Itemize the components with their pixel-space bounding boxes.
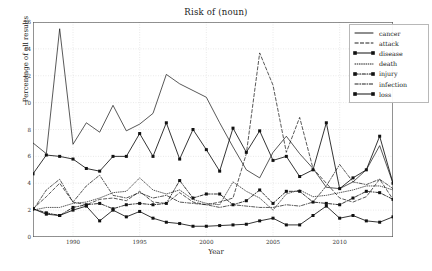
series-marker-disease [312,168,315,171]
series-marker-disease [85,167,88,170]
series-marker-injury [152,203,155,206]
legend-swatch-infection [352,79,376,89]
series-marker-injury [165,202,168,205]
series-line-disease [33,123,393,189]
series-marker-injury [272,202,275,205]
legend-item-infection[interactable]: infection [352,79,425,89]
legend-item-injury[interactable]: injury [352,69,425,79]
series-marker-injury [98,202,101,205]
series-marker-disease [192,128,195,131]
series-marker-disease [325,121,328,124]
y-tick-label: 8 [27,127,31,133]
series-marker-loss [33,207,35,210]
series-marker-disease [125,155,128,158]
x-tick-label: 1990 [66,239,80,245]
series-marker-loss [205,225,208,228]
x-tick-label: 1995 [133,239,147,245]
y-tick-label: 14 [24,46,31,52]
legend-swatch-loss [352,89,376,99]
series-marker-disease [352,176,355,179]
series-marker-loss [45,213,48,216]
series-marker-disease [165,121,168,124]
series-marker-injury [125,203,128,206]
series-marker-loss [232,223,235,226]
series-marker-disease [45,154,48,157]
series-marker-disease [58,155,61,158]
series-marker-loss [112,209,115,212]
series-marker-loss [312,214,315,217]
series-marker-loss [72,209,75,212]
y-tick-label: 10 [24,100,31,106]
series-marker-injury [178,179,181,182]
series-marker-disease [272,159,275,162]
legend-item-attack[interactable]: attack [352,38,425,48]
series-marker-injury [352,197,355,200]
y-tick-label: 6 [27,153,31,159]
y-tick-label: 0 [27,234,31,240]
legend-swatch-disease [352,48,376,58]
legend-item-cancer[interactable]: cancer [352,28,425,38]
legend-label-cancer: cancer [376,30,401,37]
series-marker-loss [85,205,88,208]
series-marker-injury [378,191,381,194]
series-marker-disease [178,158,181,161]
series-marker-loss [365,219,368,222]
series-marker-disease [378,135,381,138]
legend-item-disease[interactable]: disease [352,48,425,58]
series-marker-loss [218,224,221,227]
legend-label-attack: attack [376,40,399,47]
series-marker-injury [205,193,208,196]
series-marker-disease [392,182,394,185]
series-marker-injury [218,193,221,196]
series-marker-injury [72,206,75,209]
series-marker-disease [72,158,75,161]
series-marker-loss [138,210,141,213]
series-marker-injury [285,190,288,193]
series-marker-disease [338,187,341,190]
series-line-loss [33,206,393,226]
series-marker-injury [138,202,141,205]
series-marker-loss [378,221,381,224]
x-tick-label: 2000 [199,239,213,245]
legend-label-loss: loss [376,91,391,98]
legend-label-infection: infection [376,81,407,88]
series-marker-disease [285,155,288,158]
series-marker-loss [392,215,394,218]
series-marker-disease [33,172,35,175]
legend-label-disease: disease [376,50,403,57]
series-marker-injury [392,198,394,201]
series-marker-disease [245,151,248,154]
series-marker-loss [58,214,61,217]
series-marker-loss [338,217,341,220]
legend-swatch-attack [352,38,376,48]
legend-label-injury: injury [376,70,398,77]
series-marker-loss [298,223,301,226]
series-line-cancer [33,29,393,189]
series-marker-injury [298,190,301,193]
plot-area: 024681012141619901995200020052010 [33,22,393,237]
series-marker-disease [218,170,221,173]
series-marker-disease [138,132,141,135]
series-marker-disease [365,168,368,171]
series-marker-loss [98,219,101,222]
chart-title: Risk of (noun) [0,7,432,17]
y-tick-label: 2 [27,207,31,213]
y-tick-label: 4 [27,180,31,186]
series-marker-disease [258,129,261,132]
series-marker-injury [338,203,341,206]
legend-item-death[interactable]: death [352,59,425,69]
x-axis-label: Year [0,248,432,256]
legend-swatch-injury [352,69,376,79]
series-marker-loss [192,225,195,228]
series-marker-loss [165,221,168,224]
series-marker-injury [245,199,248,202]
series-marker-loss [272,217,275,220]
chart-canvas [33,22,393,237]
series-marker-injury [192,197,195,200]
legend-item-loss[interactable]: loss [352,89,425,99]
series-marker-loss [125,215,128,218]
series-marker-loss [152,217,155,220]
series-marker-injury [365,190,368,193]
series-marker-loss [178,222,181,225]
series-marker-loss [325,205,328,208]
